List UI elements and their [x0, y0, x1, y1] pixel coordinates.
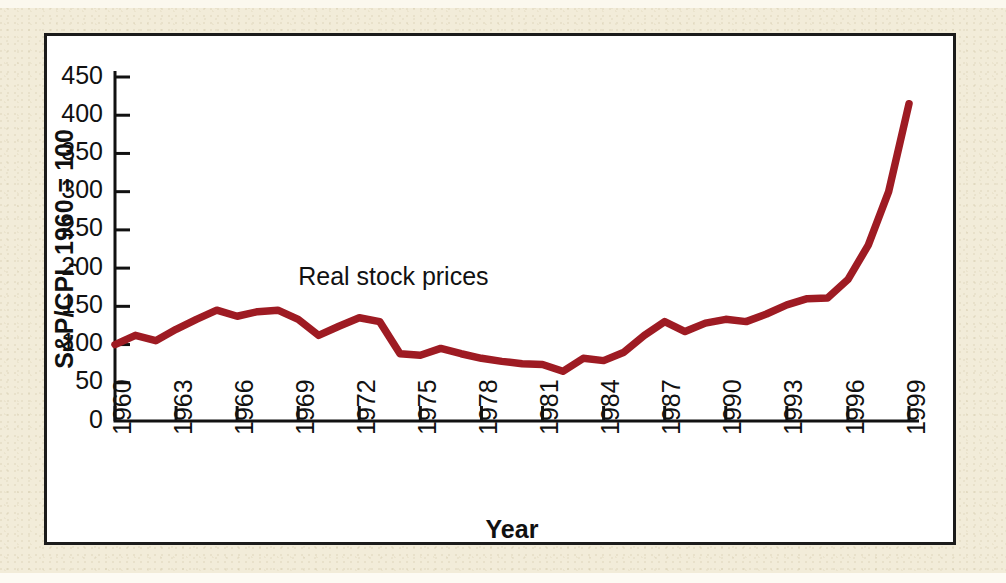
x-tick-label: 1984: [596, 379, 624, 435]
x-tick-label: 1960: [108, 379, 136, 435]
mat-bottom-shadow: [0, 573, 1006, 583]
series-annotation-label: Real stock prices: [298, 262, 488, 290]
y-tick-label: 0: [89, 405, 103, 433]
x-tick-label: 1975: [413, 379, 441, 435]
y-tick-label: 400: [61, 99, 103, 127]
y-tick-label: 50: [75, 366, 103, 394]
x-tick-label: 1993: [779, 379, 807, 435]
x-tick-label: 1999: [902, 379, 930, 435]
x-tick-label: 1981: [535, 379, 563, 435]
x-tick-label: 1963: [169, 379, 197, 435]
x-tick-label: 1987: [657, 379, 685, 435]
y-axis-title: S&P/CPI, 1960 = 100: [50, 129, 78, 369]
x-tick-label: 1972: [352, 379, 380, 435]
series-line-real-stock-prices: [115, 104, 909, 372]
x-axis-title: Year: [486, 515, 539, 542]
line-chart: 0501001502002503003504004501960196319661…: [47, 36, 953, 542]
axis-lines: [115, 71, 919, 421]
x-tick-label: 1969: [291, 379, 319, 435]
x-tick-label: 1990: [718, 379, 746, 435]
y-tick-label: 450: [61, 61, 103, 89]
chart-panel: 0501001502002503003504004501960196319661…: [44, 33, 956, 545]
mat-top-highlight: [0, 0, 1006, 8]
x-tick-label: 1966: [230, 379, 258, 435]
figure-root: 0501001502002503003504004501960196319661…: [0, 0, 1006, 583]
x-tick-label: 1996: [841, 379, 869, 435]
x-tick-label: 1978: [474, 379, 502, 435]
